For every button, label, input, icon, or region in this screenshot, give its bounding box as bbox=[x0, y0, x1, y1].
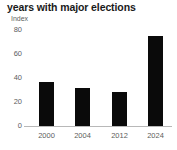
y-axis-tick-60: 60 bbox=[0, 50, 22, 58]
bar-2012 bbox=[112, 92, 127, 126]
bar-2000 bbox=[39, 82, 54, 126]
bar-2004 bbox=[75, 88, 90, 126]
y-axis-tick-0: 0 bbox=[0, 122, 22, 130]
x-axis-tick-2024: 2024 bbox=[141, 131, 170, 140]
x-axis-tick-2004: 2004 bbox=[68, 131, 97, 140]
y-axis-tick-40: 40 bbox=[0, 74, 22, 82]
x-axis-tick-2012: 2012 bbox=[105, 131, 134, 140]
x-axis-line bbox=[24, 126, 172, 127]
chart-title: years with major elections bbox=[7, 1, 136, 13]
y-axis-unit-label: Index bbox=[11, 15, 28, 22]
bar-2024 bbox=[148, 36, 163, 126]
y-axis-tick-20: 20 bbox=[0, 98, 22, 106]
x-axis-tick-2000: 2000 bbox=[32, 131, 61, 140]
y-axis-tick-80: 80 bbox=[0, 26, 22, 34]
bar-chart-figure: years with major elections Index 80 60 4… bbox=[0, 0, 177, 150]
